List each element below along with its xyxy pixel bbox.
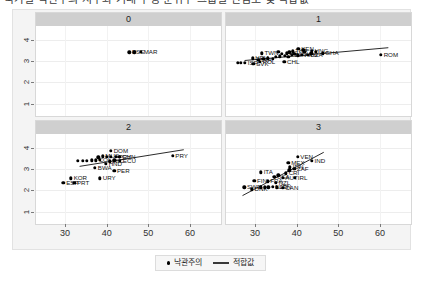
facet-strip-label-0: 0	[36, 13, 221, 27]
y-axis-tick-label: 4	[22, 142, 31, 154]
x-axis-tick-label: 30	[60, 228, 70, 238]
y-axis-tick-mark	[31, 190, 34, 191]
gridline-x	[65, 26, 66, 116]
x-axis-tick-mark	[148, 224, 149, 227]
data-point-label: ITA	[264, 169, 273, 175]
x-axis-tick-mark	[380, 224, 381, 227]
x-axis-tick-label: 40	[292, 228, 302, 238]
x-axis-tick-label: 40	[102, 228, 112, 238]
y-axis-tick-label: 2	[22, 76, 31, 88]
data-point-label: URY	[103, 175, 116, 181]
gridline-y	[36, 82, 221, 83]
gridline-x	[190, 26, 191, 116]
y-axis-tick-mark	[31, 61, 34, 62]
data-point	[127, 51, 130, 54]
y-axis-tick-mark	[31, 104, 34, 105]
facet-panel-grid: 0PSEMAR12341TWNISRSVKPOLLVAHRVCHLBLREGYA…	[13, 10, 410, 249]
facet-panel-0: 0PSEMAR	[35, 12, 222, 117]
gridline-x	[148, 26, 149, 116]
y-axis-tick-label: 2	[22, 184, 31, 196]
data-point-label: GHA	[325, 50, 338, 56]
data-point-label: CHN	[122, 153, 135, 159]
y-axis-tick-label: 4	[22, 34, 31, 46]
y-axis-tick-label: 1	[22, 98, 31, 110]
trend-line-icon	[213, 262, 229, 264]
facet-plot-area-0: PSEMAR	[36, 26, 221, 116]
x-axis-tick-mark	[65, 224, 66, 227]
legend-item-fit: 적합값	[213, 259, 254, 267]
data-point-label: ROM	[384, 51, 398, 57]
y-axis-tick-mark	[31, 169, 34, 170]
gridline-y	[36, 104, 221, 105]
facet-panel-1: 1TWNISRSVKPOLLVAHRVCHLBLREGYARGDZATHAKEN…	[225, 12, 412, 117]
y-axis-tick-label: 3	[22, 55, 31, 67]
page-title: 국가별 낙관주의 지수와 기대 수명 분위수 그룹별 산점도 및 적합값	[4, 0, 309, 6]
data-point-label: MAR	[144, 49, 158, 55]
y-axis-tick-mark	[31, 148, 34, 149]
x-axis-tick-label: 50	[143, 228, 153, 238]
y-axis-tick-label: 3	[22, 163, 31, 175]
y-axis-tick-label: 1	[22, 206, 31, 218]
x-axis-tick-mark	[297, 224, 298, 227]
data-point-label: KOR	[74, 175, 87, 181]
x-axis-tick-label: 60	[375, 228, 385, 238]
chart-title-clip: 국가별 낙관주의 지수와 기대 수명 분위수 그룹별 산점도 및 적합값	[0, 0, 421, 9]
facet-plot-area-1: TWNISRSVKPOLLVAHRVCHLBLREGYARGDZATHAKENH…	[226, 26, 411, 116]
x-axis-tick-label: 50	[333, 228, 343, 238]
chart-legend: 낙관주의 적합값	[0, 252, 421, 274]
data-point-label: IND	[314, 158, 325, 164]
gridline-y	[36, 40, 221, 41]
data-point-label: DOM	[114, 148, 128, 154]
y-axis-tick-mark	[31, 40, 34, 41]
y-axis-tick-mark	[31, 212, 34, 213]
x-axis-tick-label: 60	[185, 228, 195, 238]
fit-line-1	[226, 26, 409, 114]
fit-line-3	[226, 134, 409, 222]
x-axis-tick-mark	[190, 224, 191, 227]
legend-box: 낙관주의 적합값	[155, 255, 267, 271]
gridline-x	[107, 26, 108, 116]
y-axis-tick-mark	[31, 82, 34, 83]
gridline-y	[36, 61, 221, 62]
facet-strip-label-1: 1	[226, 13, 411, 27]
legend-label-fit: 적합값	[233, 259, 254, 267]
facet-plot-area-2: ESPPRTKORURYPERBWACOLHNDNICECUMUSPRYCHND…	[36, 134, 221, 224]
facet-strip-label-3: 3	[226, 121, 411, 135]
x-axis-tick-label: 30	[250, 228, 260, 238]
filled-circle-icon	[167, 261, 171, 265]
data-point-label: CHL	[287, 59, 299, 65]
x-axis-tick-mark	[107, 224, 108, 227]
data-point-label: PER	[117, 168, 130, 174]
facet-panel-3: 3SWEDNKNLDJPNCANFINFRANZLUSAAUTIRLITACRI…	[225, 120, 412, 225]
facet-plot-area-3: SWEDNKNLDJPNCANFINFRANZLUSAAUTIRLITACRIZ…	[226, 134, 411, 224]
legend-label-points: 낙관주의	[174, 259, 202, 267]
plot-card: 0PSEMAR12341TWNISRSVKPOLLVAHRVCHLBLREGYA…	[12, 9, 411, 250]
data-point-label: PRY	[175, 153, 188, 159]
facet-panel-2: 2ESPPRTKORURYPERBWACOLHNDNICECUMUSPRYCHN…	[35, 120, 222, 225]
facet-strip-label-2: 2	[36, 121, 221, 135]
data-point-label: MEX	[291, 159, 304, 165]
legend-item-points: 낙관주의	[167, 259, 203, 267]
x-axis-tick-mark	[255, 224, 256, 227]
x-axis-tick-mark	[338, 224, 339, 227]
